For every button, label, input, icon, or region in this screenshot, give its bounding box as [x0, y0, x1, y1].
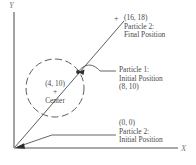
particle1-initial-position-annotation: Particle 1: Initial Position (8, 10) — [119, 66, 163, 92]
center-annotation: (4, 10) + Center — [28, 80, 82, 105]
center-label: Center — [28, 97, 82, 105]
figure-diagram: Y X + (16, 18) Particle 2: Final Positio… — [0, 0, 196, 165]
particle2-line2: Initial Position — [119, 136, 163, 145]
particle1-coords: (8, 10) — [119, 83, 163, 92]
particle2-origin-arrowhead — [15, 143, 25, 149]
particle2-initial-position-annotation: (0, 0) Particle 2: Initial Position — [119, 119, 163, 145]
final-position-annotation: (16, 18) Particle 2: Final Position — [124, 14, 165, 40]
y-axis-label: Y — [9, 0, 14, 10]
final-position-plus-marker: + — [114, 15, 119, 23]
final-position-line2: Final Position — [124, 31, 165, 40]
x-axis-label: X — [181, 143, 186, 153]
